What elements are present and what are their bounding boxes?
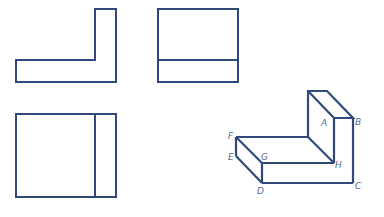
side-view [158,9,238,82]
label-f: F [228,131,234,141]
label-g: G [261,152,268,162]
label-d: D [257,186,264,196]
label-c: C [355,181,362,191]
top-view [16,114,116,197]
diagram-canvas: A B C D E F G H [0,0,384,217]
vertex-labels: A B C D E F G H [228,117,362,196]
label-h: H [335,160,342,170]
label-e: E [228,152,234,162]
label-a: A [320,118,327,128]
front-view [16,9,116,82]
label-b: B [355,117,361,127]
